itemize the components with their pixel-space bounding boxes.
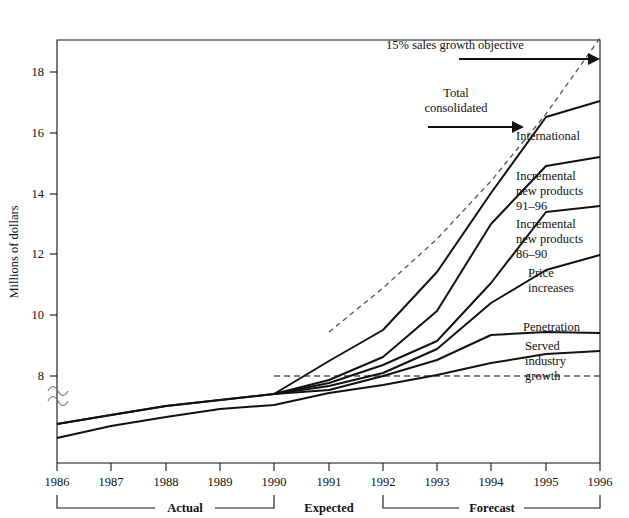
series-label-served-industry-growth: Served industry growth bbox=[525, 339, 567, 383]
price-increases-line1: Price bbox=[528, 266, 554, 280]
annotation-objective: 15% sales growth objective bbox=[386, 38, 600, 65]
chart-figure: 18 16 14 12 10 8 Millions of dollars bbox=[0, 0, 629, 518]
x-tick-label: 1987 bbox=[99, 475, 124, 489]
x-axis-tick-labels: 1986 1987 1988 1989 1990 1991 1992 1993 … bbox=[45, 475, 613, 489]
inc-86-90-line3: 86–90 bbox=[516, 247, 547, 261]
inc-86-90-line2: new products bbox=[516, 232, 583, 246]
series-label-incremental-91-96: Incremental new products 91–96 bbox=[516, 169, 583, 213]
served-line1: Served bbox=[525, 339, 560, 353]
total-consolidated-label-line2: consolidated bbox=[424, 101, 488, 115]
x-tick-label: 1988 bbox=[154, 475, 179, 489]
period-label-actual: Actual bbox=[167, 501, 203, 515]
served-line2: industry bbox=[525, 354, 567, 368]
y-tick-label: 8 bbox=[38, 369, 44, 383]
series-line-penetration bbox=[57, 351, 600, 438]
inc-91-96-line1: Incremental bbox=[516, 169, 576, 183]
y-axis-title: Millions of dollars bbox=[7, 205, 21, 298]
inc-86-90-line1: Incremental bbox=[516, 217, 576, 231]
period-label-expected: Expected bbox=[304, 501, 353, 515]
series-label-incremental-86-90: Incremental new products 86–90 bbox=[516, 217, 583, 261]
period-bracket-expected: Expected bbox=[304, 501, 353, 515]
y-axis-ticks bbox=[50, 72, 57, 376]
inc-91-96-line3: 91–96 bbox=[516, 199, 547, 213]
x-axis-ticks bbox=[57, 463, 600, 471]
period-bracket-actual: Actual bbox=[57, 495, 274, 515]
x-tick-label: 1991 bbox=[317, 475, 342, 489]
series-label-price-increases: Price increases bbox=[528, 266, 574, 295]
period-label-forecast: Forecast bbox=[469, 501, 515, 515]
annotation-total-consolidated: Total consolidated bbox=[424, 86, 524, 133]
axis-break-icon bbox=[48, 387, 68, 406]
period-bracket-forecast: Forecast bbox=[383, 495, 600, 515]
x-tick-label: 1989 bbox=[208, 475, 233, 489]
x-tick-label: 1994 bbox=[479, 475, 505, 489]
x-tick-label: 1993 bbox=[425, 475, 450, 489]
sales-forecast-line-chart: 18 16 14 12 10 8 Millions of dollars bbox=[0, 0, 629, 518]
series-label-penetration: Penetration bbox=[523, 320, 581, 334]
x-tick-label: 1990 bbox=[262, 475, 287, 489]
inc-91-96-line2: new products bbox=[516, 184, 583, 198]
x-tick-label: 1986 bbox=[45, 475, 70, 489]
x-tick-label: 1995 bbox=[534, 475, 559, 489]
arrow-head-objective bbox=[588, 53, 600, 65]
y-tick-label: 18 bbox=[32, 65, 45, 79]
y-tick-label: 10 bbox=[32, 308, 45, 322]
x-tick-label: 1996 bbox=[588, 475, 613, 489]
y-tick-label: 12 bbox=[32, 247, 45, 261]
y-tick-label: 16 bbox=[32, 126, 45, 140]
series-label-international: International bbox=[516, 129, 580, 143]
y-axis-tick-labels: 18 16 14 12 10 8 bbox=[32, 65, 45, 383]
objective-label: 15% sales growth objective bbox=[386, 38, 524, 52]
y-tick-label: 14 bbox=[32, 187, 45, 201]
x-tick-label: 1992 bbox=[371, 475, 396, 489]
total-consolidated-label-line1: Total bbox=[443, 86, 469, 100]
served-line3: growth bbox=[525, 369, 561, 383]
price-increases-line2: increases bbox=[528, 281, 574, 295]
